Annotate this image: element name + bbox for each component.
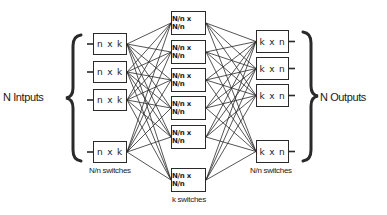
middle-switch-box: N/n x N/n [171,125,206,149]
input-switch-box: n x k [93,89,127,111]
outputs-label: N Outputs [320,91,366,103]
middle-switch-box: N/n x N/n [171,96,206,120]
stage1-label: N/n switches [89,166,131,175]
output-switch-box: k x n [256,30,289,53]
input-switch-box: n x k [93,33,127,55]
middle-switch-box: N/n x N/n [171,40,206,64]
stage2-label: k switches [172,195,206,204]
output-switch-box: k x n [256,57,289,80]
input-switch-box: n x k [93,61,127,83]
inputs-label: N Intputs [3,91,43,103]
middle-switch-box: N/n x N/n [171,168,206,192]
middle-switch-box: N/n x N/n [171,68,206,92]
output-switch-box: k x n [256,140,289,163]
stage3-label: N/n switches [250,166,292,175]
input-switch-box: n x k [93,141,127,163]
middle-switch-box: N/n x N/n [171,11,206,35]
output-switch-box: k x n [256,84,289,107]
